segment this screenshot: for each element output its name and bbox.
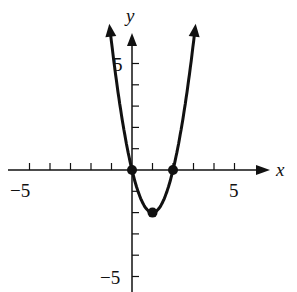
y-tick-label-neg5: −5 <box>100 267 120 288</box>
x-tick-label-neg5: −5 <box>10 180 30 201</box>
x-intercept-point <box>127 165 137 175</box>
vertex-point <box>148 208 158 218</box>
x-axis-label: x <box>275 159 285 180</box>
parabola-chart: x y −5 5 5 −5 <box>0 0 297 292</box>
x-tick-label-pos5: 5 <box>229 180 239 201</box>
y-tick-label-pos5: 5 <box>113 54 123 75</box>
curve-arrow-left-icon <box>105 24 116 38</box>
x-intercept-point <box>168 165 178 175</box>
x-axis-arrow-icon <box>256 165 270 175</box>
curve-arrow-right-icon <box>189 24 200 38</box>
y-axis-label: y <box>124 5 135 26</box>
parabola-curve <box>111 34 195 213</box>
y-axis-arrow-icon <box>127 33 137 46</box>
